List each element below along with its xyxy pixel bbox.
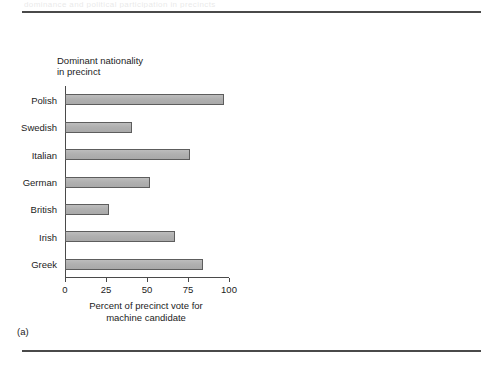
panel-a-bar <box>65 122 132 133</box>
panel-a-category-label: Swedish <box>21 122 57 133</box>
panel-b: Dominant nationality in precinct (ordere… <box>252 0 503 366</box>
panel-a-x-tick <box>65 278 66 282</box>
panel-a-bar <box>65 94 224 105</box>
panel-a-category-label: Greek <box>31 259 57 270</box>
panel-a-bar <box>65 231 175 242</box>
panel-a-category-label: Italian <box>32 149 57 160</box>
panel-a-x-tick <box>147 278 148 282</box>
panel-a-x-tick-label: 0 <box>62 284 67 295</box>
bottom-rule <box>22 350 481 352</box>
panel-a-x-tick-label: 75 <box>183 284 194 295</box>
panel-a-category-label: Irish <box>39 231 57 242</box>
panel-a-x-tick-label: 50 <box>142 284 153 295</box>
panel-a-bar <box>65 204 109 215</box>
panel-a-plot-area: 0255075100PolishSwedishItalianGermanBrit… <box>65 86 229 278</box>
panel-a-x-tick <box>106 278 107 282</box>
panel-a-category-label: German <box>23 177 57 188</box>
ghost-text-bottom <box>24 338 479 346</box>
panel-a-x-tick-label: 100 <box>221 284 237 295</box>
panel-a-category-label: British <box>31 204 57 215</box>
panel-a-bar <box>65 259 203 270</box>
panel-a-x-tick-label: 25 <box>101 284 112 295</box>
panel-a-category-label: Polish <box>31 94 57 105</box>
panel-a-x-tick <box>229 278 230 282</box>
panel-a: Dominant nationality in precinct 0255075… <box>0 0 252 366</box>
panel-a-bar <box>65 177 150 188</box>
panel-a-x-axis-title: Percent of precinct vote for machine can… <box>46 300 246 323</box>
figure-container: dominance and political participation in… <box>0 0 503 366</box>
panel-a-caption: Dominant nationality in precinct <box>57 55 197 78</box>
panel-a-bar <box>65 149 190 160</box>
panel-a-x-tick <box>188 278 189 282</box>
panel-a-label: (a) <box>17 326 29 337</box>
